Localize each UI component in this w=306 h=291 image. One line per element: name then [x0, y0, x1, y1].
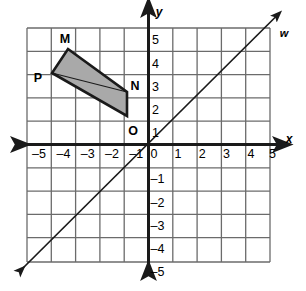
x-tick-neg1: –1	[129, 147, 143, 161]
vertex-label-n: N	[130, 79, 139, 93]
x-tick-pos5: 5	[269, 147, 276, 161]
vertex-label-p: P	[34, 71, 42, 85]
vertex-label-o: O	[128, 124, 138, 138]
y-tick-neg5: –5	[151, 265, 165, 279]
x-tick-pos3: 3	[223, 147, 230, 161]
x-tick-neg3: –3	[81, 147, 95, 161]
y-tick-neg4: –4	[151, 242, 165, 256]
x-tick-pos4: 4	[247, 147, 254, 161]
y-tick-pos3: 3	[152, 80, 159, 94]
x-tick-neg2: –2	[105, 147, 119, 161]
y-tick-neg3: –3	[151, 219, 165, 233]
x-tick-pos2: 2	[199, 147, 206, 161]
line-label-w: w	[280, 27, 290, 39]
y-tick-pos2: 2	[152, 103, 159, 117]
x-tick-pos1: 1	[175, 147, 182, 161]
x-tick-origin: 0	[151, 147, 158, 161]
x-tick-neg4: –4	[56, 147, 70, 161]
vertex-label-m: M	[60, 32, 70, 46]
coordinate-plane-figure: x y w –5 –4 –3 –2 –1 0 1 2 3 4 5 5 4 3 2…	[0, 0, 306, 291]
y-tick-neg1: –1	[151, 172, 165, 186]
graph-canvas: x y w –5 –4 –3 –2 –1 0 1 2 3 4 5 5 4 3 2…	[0, 0, 306, 291]
y-tick-pos1: 1	[152, 126, 159, 140]
axis-label-x: x	[285, 132, 294, 146]
axis-label-y: y	[155, 5, 164, 19]
y-tick-pos4: 4	[152, 57, 159, 71]
y-tick-pos5: 5	[152, 33, 159, 47]
x-tick-neg5: –5	[32, 147, 46, 161]
y-tick-neg2: –2	[151, 196, 165, 210]
